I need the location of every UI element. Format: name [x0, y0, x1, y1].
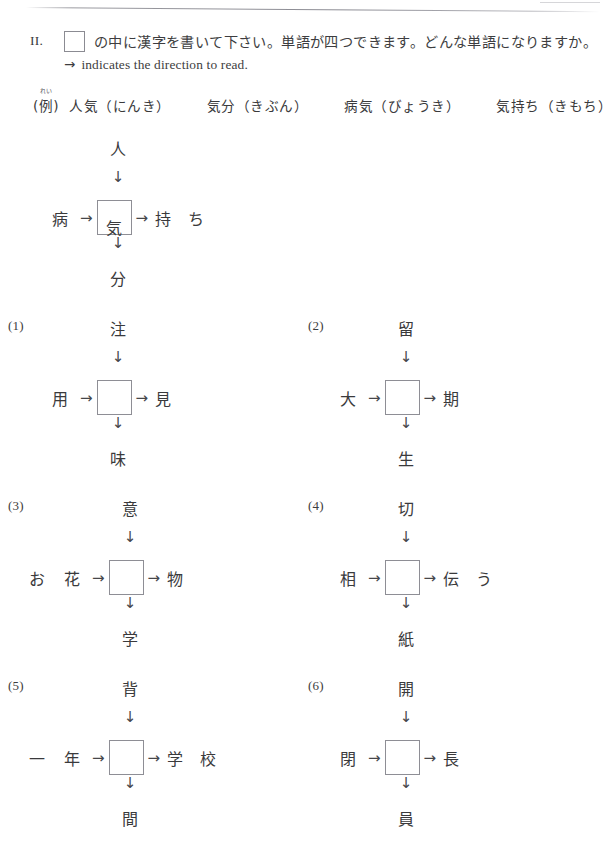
- puzzle-left-kanji: 閉: [300, 746, 364, 770]
- example-word: 気持ち（きもち）: [496, 95, 607, 115]
- puzzle-number-label: (2): [308, 318, 324, 334]
- puzzle-left-kanji: 病: [0, 206, 76, 230]
- answer-box[interactable]: [109, 560, 144, 595]
- right-arrow-icon: →: [88, 749, 109, 767]
- puzzle-number-label: (5): [8, 678, 24, 694]
- puzzle-right-kanji: 物: [164, 566, 189, 590]
- puzzle-middle-row: 用→→見: [0, 380, 300, 415]
- puzzle-right-kanji: 期: [440, 386, 465, 410]
- example-word-row: れい (例) 人気（にんき） 気分（きぶん） 病気（びょうき） 気持ち（きもち）: [0, 95, 607, 115]
- puzzle-right-kanji: 長: [440, 746, 465, 770]
- example-word: 気分（きぶん）: [207, 95, 309, 115]
- puzzle-right-kanji: 学 校: [164, 746, 222, 770]
- puzzle-top-kanji: 意: [110, 496, 150, 520]
- down-arrow-icon: ↓: [98, 348, 138, 366]
- puzzle-number-label: (3): [8, 498, 24, 514]
- puzzle-top-kanji: 留: [386, 316, 426, 340]
- puzzle-left-kanji: 相: [300, 566, 364, 590]
- right-arrow-icon: →: [76, 389, 97, 407]
- puzzle-number-label: (4): [308, 498, 324, 514]
- down-arrow-icon: ↓: [98, 234, 138, 252]
- right-arrow-icon: →: [364, 569, 385, 587]
- right-arrow-icon: →: [132, 209, 153, 227]
- puzzle-bottom-kanji: 分: [98, 266, 138, 290]
- puzzle-right-kanji: 伝 う: [440, 566, 498, 590]
- puzzle-left-kanji: 一 年: [0, 746, 88, 770]
- right-arrow-icon: →: [144, 569, 165, 587]
- puzzle-number-label: (6): [308, 678, 324, 694]
- puzzle-top-kanji: 切: [386, 496, 426, 520]
- down-arrow-icon: ↓: [110, 528, 150, 546]
- puzzle-middle-row: 相→→伝 う: [300, 560, 600, 595]
- reading-direction-note: →indicates the direction to read.: [0, 57, 600, 73]
- scan-artifact-line-secondary: [540, 2, 600, 3]
- example-label-wrap: れい (例): [33, 95, 59, 115]
- puzzle-middle-row: 閉→→長: [300, 740, 600, 775]
- instruction-header: II. の中に漢字を書いて下さい。単語が四つできます。どんな単語になりますか。 …: [0, 28, 600, 73]
- puzzle-number-label: (1): [8, 318, 24, 334]
- scan-artifact-line: [26, 7, 600, 12]
- puzzle-top-kanji: 開: [386, 676, 426, 700]
- puzzle-bottom-kanji: 生: [386, 446, 426, 470]
- section-number: II.: [30, 33, 64, 49]
- answer-box[interactable]: [97, 380, 132, 415]
- puzzle-middle-row: 一 年→→学 校: [0, 740, 300, 775]
- example-answer-box: 気: [97, 200, 132, 235]
- answer-box[interactable]: [385, 740, 420, 775]
- puzzle-left-kanji: お 花: [0, 566, 88, 590]
- example-word: 人気（にんき）: [69, 95, 171, 115]
- puzzle-right-kanji: 見: [152, 386, 177, 410]
- puzzle-middle-row: お 花→→物: [0, 560, 300, 595]
- answer-box[interactable]: [109, 740, 144, 775]
- puzzle-top-kanji: 背: [110, 676, 150, 700]
- puzzle-bottom-kanji: 学: [110, 626, 150, 650]
- down-arrow-icon: ↓: [98, 414, 138, 432]
- down-arrow-icon: ↓: [98, 168, 138, 186]
- down-arrow-icon: ↓: [386, 708, 426, 726]
- puzzle-bottom-kanji: 員: [386, 806, 426, 830]
- right-arrow-icon: →: [364, 749, 385, 767]
- instruction-line: II. の中に漢字を書いて下さい。単語が四つできます。どんな単語になりますか。: [0, 28, 600, 54]
- reading-direction-text: indicates the direction to read.: [81, 57, 248, 72]
- puzzle-middle-row: 病→気→持 ち: [0, 200, 300, 235]
- right-arrow-icon: →: [76, 209, 97, 227]
- right-arrow-icon: →: [420, 389, 441, 407]
- puzzle-bottom-kanji: 紙: [386, 626, 426, 650]
- down-arrow-icon: ↓: [386, 528, 426, 546]
- down-arrow-icon: ↓: [110, 594, 150, 612]
- down-arrow-icon: ↓: [110, 708, 150, 726]
- down-arrow-icon: ↓: [386, 594, 426, 612]
- right-arrow-icon: →: [144, 749, 165, 767]
- instruction-text: の中に漢字を書いて下さい。単語が四つできます。どんな単語になりますか。: [94, 31, 597, 51]
- down-arrow-icon: ↓: [386, 348, 426, 366]
- answer-box[interactable]: [385, 380, 420, 415]
- right-arrow-icon: →: [64, 57, 75, 72]
- right-arrow-icon: →: [88, 569, 109, 587]
- puzzle-bottom-kanji: 間: [110, 806, 150, 830]
- example-label: (例): [33, 98, 59, 114]
- empty-answer-box-icon: [64, 31, 85, 52]
- down-arrow-icon: ↓: [386, 414, 426, 432]
- down-arrow-icon: ↓: [386, 774, 426, 792]
- answer-box[interactable]: [385, 560, 420, 595]
- puzzle-top-kanji: 注: [98, 316, 138, 340]
- right-arrow-icon: →: [420, 749, 441, 767]
- puzzle-top-kanji: 人: [98, 136, 138, 160]
- down-arrow-icon: ↓: [110, 774, 150, 792]
- puzzle-right-kanji: 持 ち: [152, 206, 210, 230]
- right-arrow-icon: →: [364, 389, 385, 407]
- puzzle-left-kanji: 用: [0, 386, 76, 410]
- right-arrow-icon: →: [132, 389, 153, 407]
- example-word: 病気（びょうき）: [344, 95, 460, 115]
- puzzle-left-kanji: 大: [300, 386, 364, 410]
- right-arrow-icon: →: [420, 569, 441, 587]
- puzzle-middle-row: 大→→期: [300, 380, 600, 415]
- puzzle-bottom-kanji: 味: [98, 446, 138, 470]
- example-label-ruby: れい: [40, 86, 52, 95]
